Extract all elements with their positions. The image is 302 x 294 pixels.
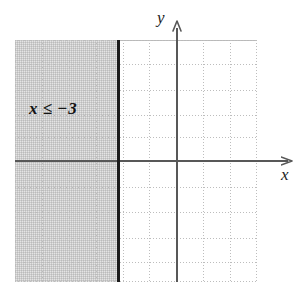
y-axis-label: y: [157, 9, 165, 26]
inequality-graph-figure: y x x ≤ −3: [0, 0, 302, 294]
gridline-horizontal: [15, 40, 118, 41]
y-axis-arrow-icon: [171, 20, 183, 32]
gridline-horizontal: [15, 238, 118, 239]
x-axis: [15, 160, 288, 162]
gridline-horizontal: [15, 137, 118, 138]
gridline-horizontal: [15, 90, 118, 91]
x-axis-label: x: [281, 166, 289, 183]
gridline-horizontal: [15, 187, 118, 188]
gridline-horizontal: [15, 64, 118, 65]
boundary-line-x-equals-minus-3: [117, 40, 120, 282]
inequality-annotation: x ≤ −3: [29, 100, 77, 117]
gridline-horizontal: [15, 281, 118, 282]
y-axis: [176, 28, 178, 282]
gridline-horizontal: [15, 212, 118, 213]
gridline-horizontal: [15, 262, 118, 263]
